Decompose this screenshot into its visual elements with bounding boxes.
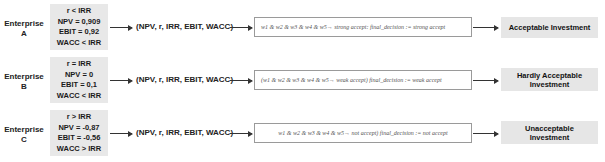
- arrow-icon: [110, 27, 132, 28]
- arrow-icon: [110, 133, 132, 134]
- enterprise-label: Enterprise C: [0, 125, 48, 145]
- row-enterprise-c: Enterprise C r > IRR NPV = -0,87 EBIT = …: [0, 106, 605, 159]
- outcome-box: Acceptable Investment: [501, 17, 598, 38]
- arrow-icon: [473, 27, 498, 28]
- condition-wacc: WACC < IRR: [50, 91, 108, 102]
- conditions-box: r > IRR NPV = -0,87 EBIT = -0,56 WACC > …: [50, 110, 108, 156]
- decision-formula-box: w1 & w2 & w3 & w4 & w5→ not accept) fina…: [254, 123, 472, 143]
- conditions-box: r = IRR NPV = 0 EBIT = 0,1 WACC < IRR: [50, 57, 108, 103]
- enterprise-letter: B: [0, 82, 48, 92]
- condition-ebit: EBIT = -0,56: [50, 133, 108, 144]
- enterprise-label: Enterprise B: [0, 72, 48, 92]
- condition-r: r = IRR: [50, 59, 108, 70]
- condition-npv: NPV = 0,909: [50, 17, 108, 28]
- enterprise-letter: C: [0, 135, 48, 145]
- enterprise-name: Enterprise: [4, 72, 44, 81]
- row-enterprise-b: Enterprise B r = IRR NPV = 0 EBIT = 0,1 …: [0, 53, 605, 106]
- outcome-box: Unacceptable Investment: [501, 121, 598, 144]
- condition-wacc: WACC < IRR: [50, 38, 108, 49]
- variables-tuple: (NPV, r, IRR, EBIT, WACC): [136, 75, 233, 84]
- conditions-box: r < IRR NPV = 0,909 EBIT = 0,92 WACC < I…: [50, 4, 108, 50]
- enterprise-letter: A: [0, 29, 48, 39]
- condition-ebit: EBIT = 0,92: [50, 27, 108, 38]
- enterprise-name: Enterprise: [4, 125, 44, 134]
- arrow-icon: [230, 80, 252, 81]
- condition-npv: NPV = -0,87: [50, 123, 108, 134]
- arrow-icon: [230, 27, 252, 28]
- arrow-icon: [110, 80, 132, 81]
- condition-ebit: EBIT = 0,1: [50, 80, 108, 91]
- decision-formula-box: w1 & w2 & w3 & w4 & w5→ strong accept: f…: [254, 17, 472, 37]
- outcome-box: Hardly Acceptable Investment: [501, 68, 598, 91]
- condition-r: r < IRR: [50, 6, 108, 17]
- arrow-icon: [230, 133, 252, 134]
- enterprise-name: Enterprise: [4, 19, 44, 28]
- arrow-icon: [473, 133, 498, 134]
- condition-wacc: WACC > IRR: [50, 144, 108, 155]
- row-enterprise-a: Enterprise A r < IRR NPV = 0,909 EBIT = …: [0, 0, 605, 53]
- enterprise-label: Enterprise A: [0, 19, 48, 39]
- variables-tuple: (NPV, r, IRR, EBIT, WACC): [136, 22, 233, 31]
- arrow-icon: [473, 80, 498, 81]
- variables-tuple: (NPV, r, IRR, EBIT, WACC): [136, 128, 233, 137]
- condition-r: r > IRR: [50, 112, 108, 123]
- decision-formula-box: (w1 & w2 & w3 & w4 & w5→ weak accept) fi…: [254, 70, 472, 90]
- condition-npv: NPV = 0: [50, 70, 108, 81]
